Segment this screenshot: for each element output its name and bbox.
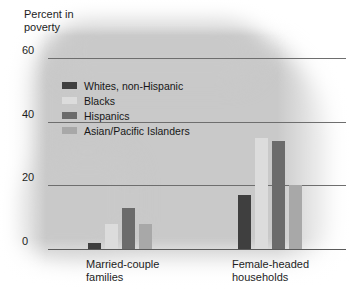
y-tick-0: 0 (22, 236, 46, 247)
legend-swatch-icon (62, 127, 77, 134)
legend-swatch-icon (62, 112, 77, 119)
gridline-60 (48, 58, 346, 59)
x-category-label: Female-headed households (232, 258, 309, 284)
bar (88, 243, 101, 249)
bar (122, 208, 135, 249)
bar (255, 138, 268, 249)
bar (238, 195, 251, 249)
chart-legend: Whites, non-HispanicBlacksHispanicsAsian… (62, 78, 190, 138)
bar (139, 224, 152, 249)
legend-item-label: Whites, non-Hispanic (84, 80, 183, 92)
y-tick-60: 60 (22, 45, 46, 56)
bar (289, 185, 302, 249)
legend-swatch-icon (62, 82, 77, 89)
bar (105, 224, 118, 249)
legend-item: Blacks (62, 93, 190, 108)
legend-item: Asian/Pacific Islanders (62, 123, 190, 138)
axis-baseline (48, 249, 346, 250)
y-tick-40: 40 (22, 109, 46, 120)
legend-item-label: Asian/Pacific Islanders (84, 125, 190, 137)
bar (272, 141, 285, 249)
legend-swatch-icon (62, 97, 77, 104)
legend-item-label: Blacks (84, 95, 115, 107)
legend-item: Whites, non-Hispanic (62, 78, 190, 93)
y-axis-title: Percent in poverty (24, 8, 134, 34)
poverty-bar-chart: Percent in poverty 6040200 Whites, non-H… (0, 0, 363, 292)
y-tick-20: 20 (22, 172, 46, 183)
legend-item-label: Hispanics (84, 110, 130, 122)
x-category-label: Married-couple families (86, 258, 159, 284)
legend-item: Hispanics (62, 108, 190, 123)
